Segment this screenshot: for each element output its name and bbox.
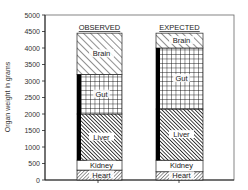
y-tick-label: 4500 <box>24 28 40 35</box>
y-tick-label: 5000 <box>24 12 40 19</box>
segment-label-kidney: Kidney <box>90 161 113 170</box>
segment-label-brain: Brain <box>173 36 191 45</box>
segment-label-liver: Liver <box>93 133 110 142</box>
bar-expected: HeartKidneyLiverGutBrainEXPECTED <box>156 23 203 180</box>
y-tick-label: 3000 <box>24 78 40 85</box>
bars: HeartKidneyLiverGutBrainOBSERVEDHeartKid… <box>77 23 203 180</box>
bar-title: OBSERVED <box>79 23 121 32</box>
y-tick-label: 2000 <box>24 111 40 118</box>
y-ticks: 0500100015002000250030003500400045005000 <box>24 12 45 184</box>
black-strip <box>156 48 160 160</box>
y-tick-label: 0 <box>36 177 40 184</box>
segment-label-liver: Liver <box>173 130 190 139</box>
y-tick-label: 2500 <box>24 94 40 101</box>
bar-observed: HeartKidneyLiverGutBrainOBSERVED <box>77 23 122 180</box>
plot-frame <box>45 15 234 180</box>
y-tick-label: 1000 <box>24 144 40 151</box>
y-tick-label: 1500 <box>24 127 40 134</box>
segment-label-gut: Gut <box>95 90 108 99</box>
y-tick-label: 500 <box>28 160 40 167</box>
segment-label-kidney: Kidney <box>170 161 193 170</box>
stacked-bar-chart: 0500100015002000250030003500400045005000… <box>0 0 248 190</box>
segment-label-brain: Brain <box>93 49 111 58</box>
segment-label-heart: Heart <box>92 171 111 180</box>
black-strip <box>77 74 81 160</box>
y-axis-label: Organ weight in grams <box>4 61 12 132</box>
y-tick-label: 3500 <box>24 61 40 68</box>
segment-label-heart: Heart <box>172 171 191 180</box>
y-tick-label: 4000 <box>24 45 40 52</box>
bar-title: EXPECTED <box>159 23 200 32</box>
segment-label-gut: Gut <box>175 74 188 83</box>
